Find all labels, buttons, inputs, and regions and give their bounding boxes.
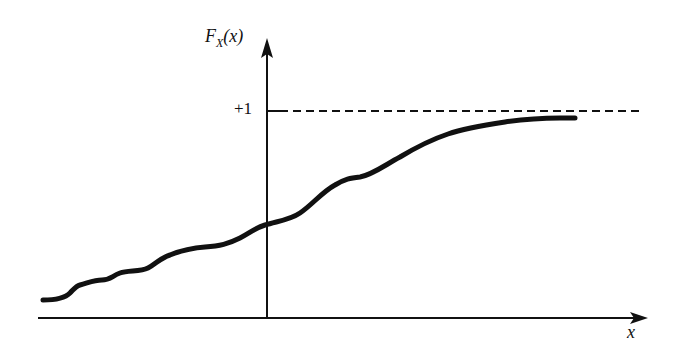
asymptote-label: +1 <box>234 99 252 119</box>
cdf-curve <box>43 118 575 300</box>
y-axis-label: FX(x) <box>205 26 243 51</box>
y-label-main: F <box>205 26 216 46</box>
y-label-arg: (x) <box>223 26 243 46</box>
x-axis-label: x <box>627 322 635 343</box>
cdf-diagram <box>0 0 674 358</box>
